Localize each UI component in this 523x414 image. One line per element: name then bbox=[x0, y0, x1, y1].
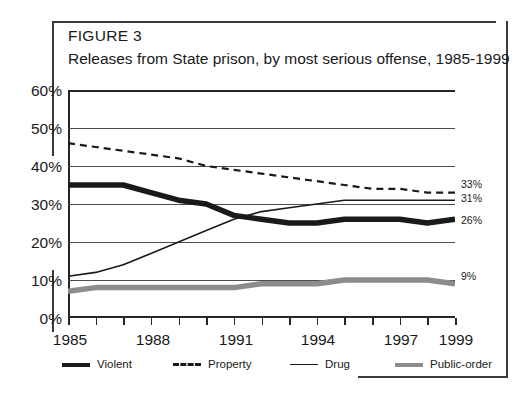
legend-swatch-public-order-icon bbox=[395, 359, 423, 370]
x-tick-1997 bbox=[400, 318, 402, 325]
legend-label-violent: Violent bbox=[97, 358, 132, 370]
y-tick-30: 30% bbox=[2, 197, 62, 213]
frame-right-border bbox=[506, 21, 508, 378]
x-tick-1985 bbox=[68, 318, 70, 325]
x-tick-1998 bbox=[427, 318, 429, 325]
x-tick-1992 bbox=[262, 318, 264, 325]
end-label-property: 33% bbox=[461, 178, 482, 190]
series-line-public-order bbox=[68, 280, 455, 291]
x-tick-1987 bbox=[123, 318, 125, 325]
x-label-1985: 1985 bbox=[53, 331, 87, 349]
legend-swatch-property-icon bbox=[173, 359, 201, 370]
x-tick-1993 bbox=[289, 318, 291, 325]
x-label-1991: 1991 bbox=[219, 331, 253, 349]
figure-title: Releases from State prison, by most seri… bbox=[68, 50, 510, 68]
x-tick-1991 bbox=[234, 318, 236, 325]
x-tick-1990 bbox=[206, 318, 208, 325]
legend-label-drug: Drug bbox=[325, 358, 350, 370]
y-tick-10: 10% bbox=[2, 273, 62, 289]
x-label-1999: 1999 bbox=[439, 331, 473, 349]
x-tick-1999 bbox=[455, 318, 457, 325]
x-tick-1989 bbox=[179, 318, 181, 325]
plot-area bbox=[68, 90, 455, 318]
y-tick-40: 40% bbox=[2, 159, 62, 175]
y-tick-20: 20% bbox=[2, 235, 62, 251]
x-axis-labels: 1985 1988 1991 1994 1997 1999 bbox=[0, 331, 523, 353]
legend-item-drug[interactable]: Drug bbox=[290, 358, 350, 370]
x-label-1988: 1988 bbox=[136, 331, 170, 349]
x-axis-ticks bbox=[68, 318, 455, 326]
y-axis: 60% 50% 40% 30% 20% 10% 0% bbox=[0, 90, 62, 318]
legend-label-property: Property bbox=[208, 358, 251, 370]
figure-container: FIGURE 3 Releases from State prison, by … bbox=[0, 0, 523, 414]
series-line-violent bbox=[68, 185, 455, 223]
y-tick-60: 60% bbox=[2, 83, 62, 99]
end-label-public-order: 9% bbox=[461, 270, 476, 282]
legend-swatch-violent-icon bbox=[62, 359, 90, 370]
frame-top-border bbox=[52, 21, 496, 23]
legend-item-public-order[interactable]: Public-order bbox=[395, 358, 492, 370]
y-tick-50: 50% bbox=[2, 121, 62, 137]
x-tick-1995 bbox=[344, 318, 346, 325]
end-label-drug: 31% bbox=[461, 192, 482, 204]
x-tick-1996 bbox=[372, 318, 374, 325]
series-lines bbox=[68, 90, 455, 318]
legend-item-violent[interactable]: Violent bbox=[62, 358, 132, 370]
y-tick-0: 0% bbox=[2, 311, 62, 327]
x-label-1994: 1994 bbox=[301, 331, 335, 349]
legend: Violent Property Drug Public-order bbox=[0, 358, 523, 380]
x-label-1997: 1997 bbox=[384, 331, 418, 349]
end-label-violent: 26% bbox=[461, 214, 482, 226]
x-tick-1994 bbox=[317, 318, 319, 325]
figure-label: FIGURE 3 bbox=[68, 27, 142, 45]
legend-label-public-order: Public-order bbox=[430, 358, 492, 370]
legend-swatch-drug-icon bbox=[290, 359, 318, 370]
legend-item-property[interactable]: Property bbox=[173, 358, 251, 370]
x-tick-1988 bbox=[151, 318, 153, 325]
series-line-drug bbox=[68, 200, 455, 276]
x-tick-1986 bbox=[96, 318, 98, 325]
